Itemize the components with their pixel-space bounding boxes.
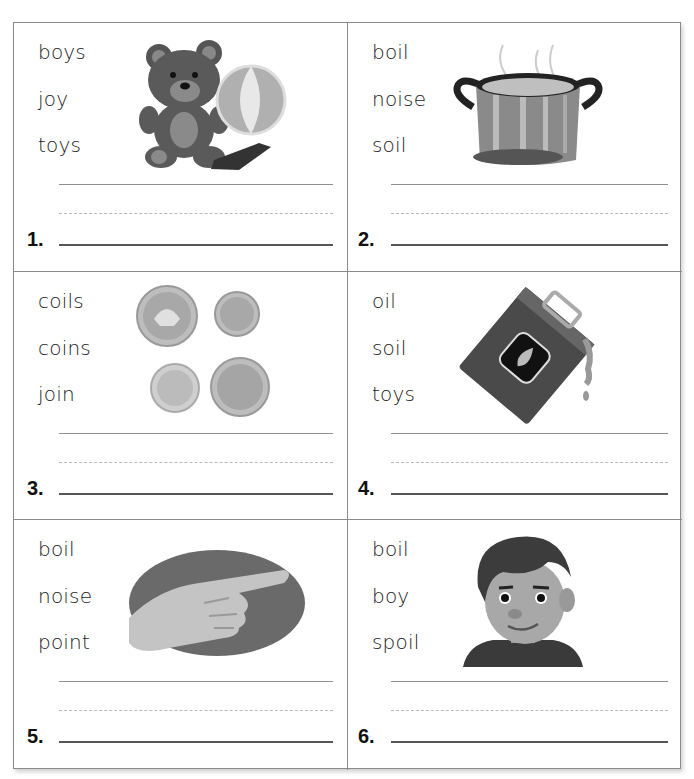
- answer-line[interactable]: [59, 493, 333, 495]
- guide-line-midline: [391, 710, 668, 711]
- worksheet: boys joy toys: [13, 22, 681, 769]
- answer-line[interactable]: [59, 741, 333, 743]
- word-list: boil boy spoil: [372, 534, 419, 674]
- exercise-number: 4.: [358, 477, 375, 500]
- exercise-5: boil noise point 5.: [14, 520, 348, 770]
- answer-line[interactable]: [59, 244, 333, 246]
- guide-line-midline: [59, 462, 333, 463]
- exercise-1: boys joy toys: [14, 23, 348, 272]
- word-option: boil: [372, 534, 419, 581]
- word-option: noise: [38, 581, 92, 628]
- exercise-3: coils coins join 3.: [14, 272, 348, 520]
- answer-line[interactable]: [391, 741, 668, 743]
- guide-line-top: [391, 433, 668, 434]
- word-option: point: [38, 627, 92, 674]
- word-option: boil: [372, 37, 426, 84]
- word-list: boil noise soil: [372, 37, 426, 177]
- word-option: soil: [372, 333, 415, 380]
- exercise-number: 6.: [358, 725, 375, 748]
- exercise-number: 2.: [358, 228, 375, 251]
- guide-line-top: [59, 681, 333, 682]
- word-list: oil soil toys: [372, 286, 415, 426]
- oil-can-icon: [453, 284, 613, 424]
- guide-line-midline: [391, 462, 668, 463]
- guide-line-midline: [59, 710, 333, 711]
- word-option: coils: [38, 286, 91, 333]
- word-list: coils coins join: [38, 286, 91, 426]
- guide-line-midline: [59, 213, 333, 214]
- word-option: soil: [372, 130, 426, 177]
- word-option: toys: [372, 379, 415, 426]
- exercise-6: boil boy spoil 6.: [348, 520, 682, 770]
- word-option: noise: [372, 84, 426, 131]
- word-option: spoil: [372, 627, 419, 674]
- guide-line-top: [59, 184, 333, 185]
- word-option: coins: [38, 333, 91, 380]
- guide-line-top: [59, 433, 333, 434]
- exercise-4: oil soil toys 4.: [348, 272, 682, 520]
- boy-portrait-icon: [463, 532, 583, 667]
- answer-line[interactable]: [391, 493, 668, 495]
- guide-line-top: [391, 184, 668, 185]
- exercise-number: 1.: [27, 228, 44, 251]
- guide-line-midline: [391, 213, 668, 214]
- word-list: boil noise point: [38, 534, 92, 674]
- word-option: toys: [38, 130, 86, 177]
- word-option: joy: [38, 84, 86, 131]
- word-list: boys joy toys: [38, 37, 86, 177]
- pointing-hand-icon: [129, 538, 309, 678]
- word-option: boil: [38, 534, 92, 581]
- coins-icon: [129, 284, 289, 424]
- exercise-2: boil noise soil 2.: [348, 23, 682, 272]
- exercise-number: 5.: [27, 725, 44, 748]
- word-option: boys: [38, 37, 86, 84]
- word-option: oil: [372, 286, 415, 333]
- guide-line-top: [391, 681, 668, 682]
- word-option: join: [38, 379, 91, 426]
- word-option: boy: [372, 581, 419, 628]
- teddy-bear-icon: [129, 35, 289, 175]
- answer-line[interactable]: [391, 244, 668, 246]
- boiling-pot-icon: [448, 35, 608, 175]
- exercise-number: 3.: [27, 477, 44, 500]
